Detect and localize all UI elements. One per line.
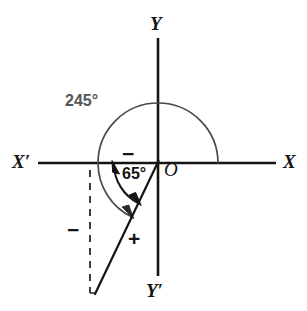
rotation-angle-label: 245° — [65, 93, 98, 109]
origin-label: O — [164, 160, 178, 179]
y-negative-axis-label: Y′ — [146, 281, 163, 300]
x-negative-axis-label: X′ — [12, 152, 30, 171]
x-axis-label: X — [283, 152, 296, 171]
x-component-sign-label: − — [122, 143, 134, 164]
y-component-sign-label: − — [67, 219, 79, 240]
radius-sign-label: + — [128, 228, 140, 249]
reference-angle-label: 65° — [122, 166, 146, 182]
y-axis-label: Y — [150, 14, 162, 33]
angle-diagram-svg — [0, 0, 307, 311]
diagram-canvas: Y Y′ X′ X O 245° 65° − − + — [0, 0, 307, 311]
